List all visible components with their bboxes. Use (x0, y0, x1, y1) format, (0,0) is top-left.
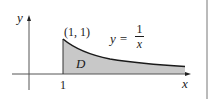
equation-lhs-text: y = (110, 31, 128, 46)
equation-lhs: y = (110, 32, 128, 45)
x-tick-label-1: 1 (60, 79, 66, 91)
fraction-denominator: x (137, 38, 142, 50)
diagram-canvas: y x 1 (1, 1) D y = 1 x (0, 0, 214, 99)
y-axis-arrow-icon (27, 15, 31, 21)
region-label: D (76, 57, 85, 70)
y-axis-label: y (17, 11, 23, 24)
fraction-numerator: 1 (137, 23, 143, 35)
x-axis-label: x (182, 77, 188, 90)
equation-fraction: 1 x (135, 23, 144, 50)
point-label: (1, 1) (64, 26, 90, 38)
